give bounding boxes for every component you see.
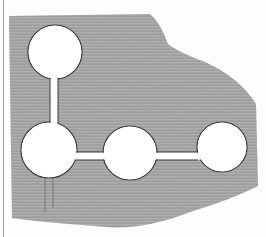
horizontal-slot bbox=[70, 153, 206, 160]
engraving-figure: Engraved illustration of a flat plate wi… bbox=[0, 0, 266, 237]
vertical-slot bbox=[51, 70, 58, 130]
plate-illustration bbox=[0, 0, 266, 237]
